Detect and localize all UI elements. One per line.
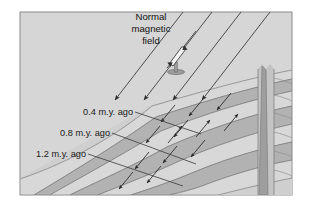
age-label-1-2: 1.2 m.y. ago — [36, 149, 86, 159]
normal-magnetic-field-label-line1: Normal — [136, 11, 167, 22]
normal-magnetic-field-label-line2: magnetic — [132, 23, 171, 34]
normal-magnetic-field-label-line3: field — [142, 35, 160, 46]
figure-container: Normal magnetic field 0.4 m.y. ago 0.8 m… — [0, 0, 311, 209]
age-label-0-8: 0.8 m.y. ago — [60, 128, 110, 138]
seafloor-spreading-diagram: Normal magnetic field 0.4 m.y. ago 0.8 m… — [0, 0, 311, 209]
age-label-0-4: 0.4 m.y. ago — [83, 107, 133, 117]
